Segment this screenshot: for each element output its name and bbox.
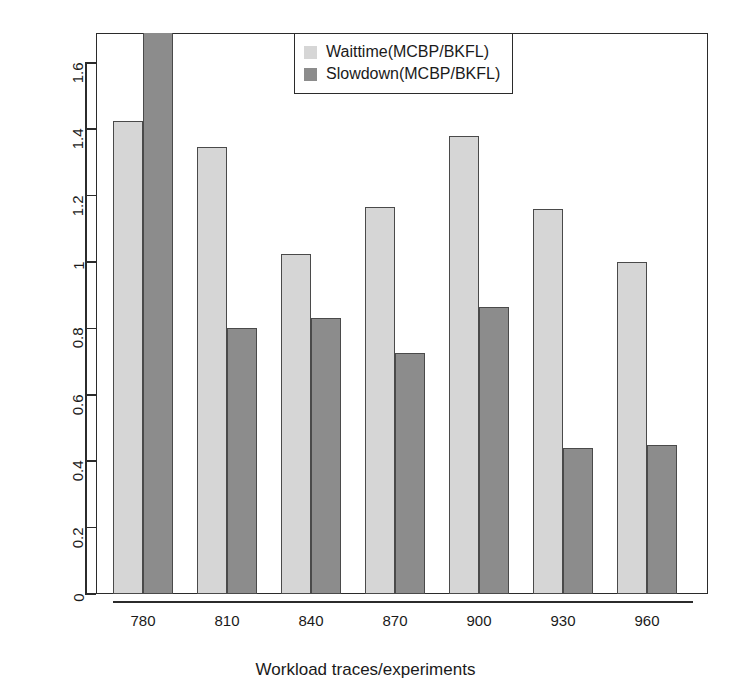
- bar-810-waittime: [197, 147, 227, 594]
- y-axis: 00.20.40.60.811.21.41.6: [0, 0, 96, 693]
- bar-840-waittime: [281, 254, 311, 594]
- bar-930-slowdown: [563, 448, 593, 594]
- y-axis-tick: [85, 394, 96, 396]
- y-axis-tick-label: 1.6: [70, 62, 87, 83]
- legend-item: Slowdown(MCBP/BKFL): [304, 63, 500, 85]
- chart-legend: Waittime(MCBP/BKFL) Slowdown(MCBP/BKFL): [294, 33, 513, 94]
- legend-swatch-slowdown: [304, 68, 317, 81]
- y-axis-tick: [85, 128, 96, 130]
- bar-900-waittime: [449, 136, 479, 594]
- y-axis-tick-label: 0.4: [70, 461, 87, 482]
- x-axis-tick-label: 900: [449, 612, 509, 629]
- y-axis-tick: [85, 527, 96, 529]
- legend-item: Waittime(MCBP/BKFL): [304, 41, 500, 63]
- y-axis-tick-label: 1.4: [70, 129, 87, 150]
- bar-870-slowdown: [395, 353, 425, 594]
- y-axis-tick-label: 0.2: [70, 527, 87, 548]
- y-axis-tick-label: 0.8: [70, 328, 87, 349]
- bar-780-slowdown: [143, 33, 173, 594]
- y-axis-tick: [85, 328, 96, 330]
- x-axis-tick-label: 870: [365, 612, 425, 629]
- bar-870-waittime: [365, 207, 395, 594]
- y-axis-tick-label: 0.6: [70, 394, 87, 415]
- y-axis-tick-label: 1: [70, 262, 87, 270]
- x-axis-tick-label: 810: [197, 612, 257, 629]
- x-axis-title: Workload traces/experiments: [0, 660, 731, 680]
- legend-label-waittime: Waittime(MCBP/BKFL): [326, 41, 489, 63]
- bar-780-waittime: [113, 121, 143, 594]
- legend-label-slowdown: Slowdown(MCBP/BKFL): [326, 63, 500, 85]
- y-axis-tick-label: 0: [70, 594, 87, 602]
- legend-swatch-waittime: [304, 46, 317, 59]
- bar-930-waittime: [533, 209, 563, 594]
- bar-840-slowdown: [311, 318, 341, 594]
- y-axis-tick-label: 1.2: [70, 195, 87, 216]
- x-axis-tick-label: 930: [533, 612, 593, 629]
- bar-810-slowdown: [227, 328, 257, 594]
- x-axis-tick-label: 780: [113, 612, 173, 629]
- bar-900-slowdown: [479, 307, 509, 594]
- y-axis-tick: [85, 62, 96, 64]
- chart-figure: Normalized waittime, slowdown metrics 00…: [0, 0, 731, 693]
- bars-layer: [96, 33, 708, 594]
- bar-960-waittime: [617, 262, 647, 594]
- bar-960-slowdown: [647, 445, 677, 594]
- x-axis-spine: [113, 601, 693, 603]
- x-axis-tick-label: 960: [617, 612, 677, 629]
- y-axis-tick: [85, 460, 96, 462]
- x-axis-tick-label: 840: [281, 612, 341, 629]
- y-axis-tick: [85, 195, 96, 197]
